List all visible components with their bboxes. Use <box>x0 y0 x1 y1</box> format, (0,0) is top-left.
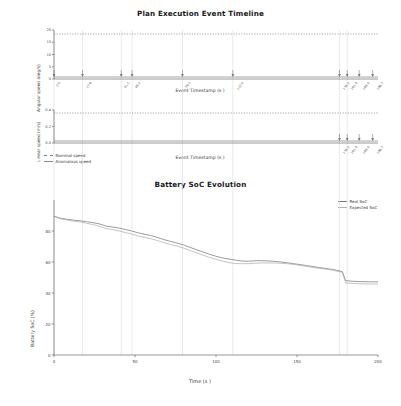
tick-label: 80 <box>45 229 50 234</box>
tick-label: 0 <box>50 359 58 364</box>
soc-plot-lines <box>54 216 378 284</box>
soc-series-real <box>54 216 378 282</box>
chart-vector-layer <box>0 0 401 406</box>
tick-label: 5 <box>49 65 51 69</box>
tick-label: 100 <box>212 359 220 364</box>
tick-label: 200 <box>374 359 382 364</box>
tick-label: 150 <box>293 359 301 364</box>
tick-label: 10 <box>46 53 51 57</box>
tick-label: 0.2 <box>45 125 51 129</box>
tick-label: 0.4 <box>45 108 51 112</box>
tick-label: 0 <box>48 353 51 358</box>
axis-spines <box>52 200 378 357</box>
tick-label: 0.0 <box>45 141 51 145</box>
tick-label: 20 <box>46 28 51 32</box>
figure-canvas: Plan Execution Event Timeline Angular sp… <box>0 0 401 406</box>
tick-label: 15 <box>46 40 51 44</box>
linear-speed-plot <box>52 110 378 143</box>
soc-series-expected <box>54 216 378 284</box>
tick-label: 60 <box>45 260 50 265</box>
tick-label: 20 <box>45 322 50 327</box>
angular-speed-plot <box>52 30 378 79</box>
tick-label: 50 <box>131 359 139 364</box>
tick-label: 0 <box>49 77 51 81</box>
tick-label: 40 <box>45 291 50 296</box>
